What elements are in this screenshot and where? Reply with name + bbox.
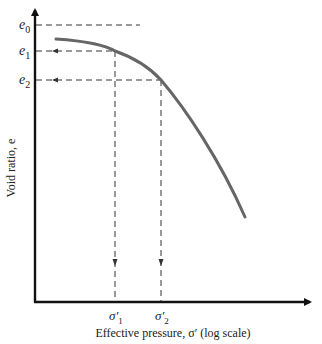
sigma1-label: σ′1 — [109, 308, 123, 326]
e2-label: e2 — [19, 72, 30, 90]
x-axis-label: Effective pressure, σ′ (log scale) — [95, 326, 250, 340]
e2-arrow-icon — [52, 78, 58, 83]
void-ratio-diagram: e0 e1 e2 Void ratio, e σ′1 σ′2 Effective… — [0, 0, 322, 344]
e1-arrow-icon — [52, 49, 58, 54]
y-axis-label: Void ratio, e — [4, 139, 18, 198]
sigma2-arrow-icon — [159, 259, 164, 266]
consolidation-curve — [56, 39, 245, 217]
sigma1-arrow-icon — [113, 259, 118, 266]
e0-label: e0 — [19, 17, 30, 35]
sigma2-label: σ′2 — [155, 308, 169, 326]
e1-label: e1 — [19, 43, 30, 61]
